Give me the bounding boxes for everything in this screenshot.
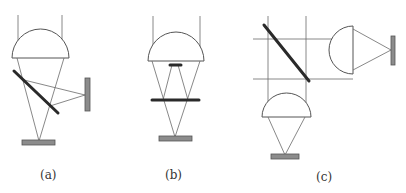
panel-label-b: (b) xyxy=(165,168,182,182)
panel-label-c: (c) xyxy=(316,170,332,184)
focusing-lens xyxy=(12,29,69,58)
bottom-detector xyxy=(22,140,55,145)
side-detector xyxy=(85,78,90,111)
bottom-focusing-lens xyxy=(262,93,311,117)
bottom-detector xyxy=(271,154,299,159)
right-detector xyxy=(391,36,395,65)
bottom-focus-ray-right xyxy=(285,117,305,155)
right-focus-ray-top xyxy=(353,29,391,50)
panel-label-a: (a) xyxy=(40,168,57,182)
right-focusing-lens xyxy=(329,26,353,74)
panel-a xyxy=(12,15,90,145)
focus-ray-left xyxy=(17,58,39,141)
inner-ray-right xyxy=(178,65,188,100)
panel-c xyxy=(253,16,395,159)
right-focus-ray-bottom xyxy=(353,50,391,70)
optical-diagram xyxy=(0,0,406,193)
reflected-ray-lower xyxy=(50,95,85,106)
bottom-focus-ray-left xyxy=(268,117,285,155)
panel-b xyxy=(148,16,204,141)
beamsplitter-mirror xyxy=(14,71,58,113)
beamsplitter-mirror xyxy=(264,25,309,81)
focusing-lens xyxy=(148,32,204,61)
bottom-detector xyxy=(159,136,192,141)
inner-ray-left xyxy=(163,65,172,100)
